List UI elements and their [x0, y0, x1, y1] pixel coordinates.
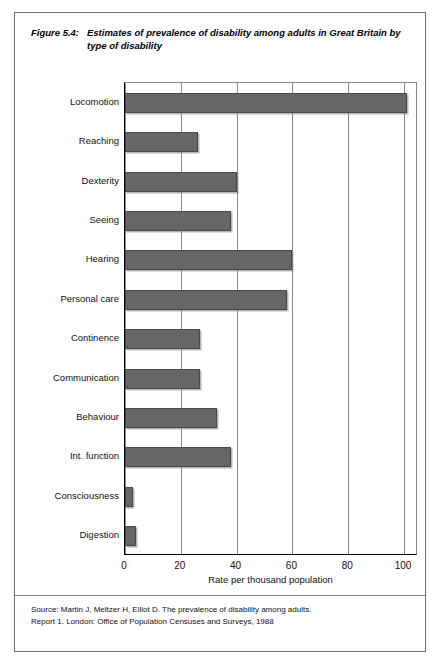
bar-series — [125, 83, 416, 554]
bar — [125, 290, 287, 310]
x-axis-tick-labels: 020406080100 — [124, 555, 417, 575]
x-axis-title: Rate per thousand population — [124, 574, 417, 585]
bar-row — [125, 369, 200, 389]
figure-title: Estimates of prevalence of disability am… — [87, 27, 413, 52]
bar-row — [125, 93, 407, 113]
category-label: Personal care — [60, 289, 119, 309]
category-label: Communication — [53, 368, 119, 388]
source-divider — [15, 595, 425, 596]
bar — [125, 329, 200, 349]
bar-row — [125, 447, 231, 467]
source-line-1: Source: Martin J, Meltzer H, Elliot D. T… — [31, 604, 409, 616]
bar — [125, 250, 292, 270]
category-label: Behaviour — [76, 407, 119, 427]
category-label: Int. function — [70, 446, 119, 466]
category-label: Seeing — [89, 210, 119, 230]
x-tick-label: 20 — [174, 560, 185, 571]
category-label: Consciousness — [55, 486, 119, 506]
bar — [125, 172, 237, 192]
category-label: Locomotion — [70, 92, 119, 112]
category-label: Dexterity — [82, 171, 119, 191]
figure-container: Figure 5.4: Estimates of prevalence of d… — [14, 12, 426, 652]
source-note: Source: Martin J, Meltzer H, Elliot D. T… — [31, 604, 409, 627]
bar-row — [125, 329, 200, 349]
x-tick-label: 60 — [286, 560, 297, 571]
bar — [125, 211, 231, 231]
bar-row — [125, 526, 136, 546]
bar-row — [125, 172, 237, 192]
bar — [125, 408, 217, 428]
bar-row — [125, 250, 292, 270]
x-tick-label: 80 — [342, 560, 353, 571]
bar-row — [125, 487, 133, 507]
figure-number: Figure 5.4: — [31, 27, 87, 40]
bar-row — [125, 211, 231, 231]
source-line-2: Report 1. London: Office of Population C… — [31, 616, 409, 628]
bar — [125, 132, 198, 152]
figure-title-row: Figure 5.4: Estimates of prevalence of d… — [31, 27, 413, 52]
bar-row — [125, 290, 287, 310]
category-label: Hearing — [86, 249, 119, 269]
chart-area: LocomotionReachingDexteritySeeingHearing… — [31, 68, 413, 578]
bar — [125, 93, 407, 113]
bar — [125, 487, 133, 507]
x-tick-label: 0 — [121, 560, 127, 571]
category-label: Continence — [71, 328, 119, 348]
bar — [125, 369, 200, 389]
x-tick-label: 100 — [395, 560, 412, 571]
bar — [125, 526, 136, 546]
plot-area — [124, 82, 417, 555]
category-label: Reaching — [79, 131, 119, 151]
category-label: Digestion — [79, 525, 119, 545]
bar — [125, 447, 231, 467]
bar-row — [125, 132, 198, 152]
y-axis-category-labels: LocomotionReachingDexteritySeeingHearing… — [31, 82, 119, 555]
x-tick-label: 40 — [230, 560, 241, 571]
bar-row — [125, 408, 217, 428]
